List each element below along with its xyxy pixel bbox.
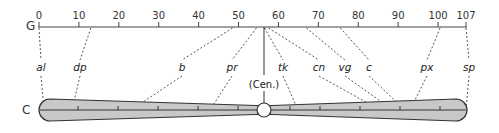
gene-label-cn: cn [313,61,325,73]
scale-tick-label: 20 [112,10,125,21]
gene-connector-upper [306,28,345,60]
centromere-circle [257,103,271,117]
chromosome-map-diagram: G 0102030405060708090100107 aldpbprtkcnv… [0,0,499,133]
gene-connector-lines [39,28,469,110]
gene-connector-upper [427,28,440,60]
scale-tick-label: 0 [36,10,42,21]
genetic-map-axis: G 0102030405060708090100107 [26,10,476,33]
gene-label-b: b [179,61,186,73]
cytological-map: C [22,99,467,121]
gene-label-c: c [366,61,372,73]
gene-label-al: al [36,61,45,73]
cytological-map-letter: C [22,103,30,117]
genetic-map-ticks: 0102030405060708090100107 [36,10,476,27]
gene-connector-upper [80,28,91,60]
gene-connector-upper [39,28,41,60]
gene-label-vg: vg [339,61,352,73]
gene-connector-upper [340,28,369,60]
genetic-map-letter: G [26,19,35,33]
centromere-label: (Cen.) [249,79,280,90]
scale-tick-label: 70 [312,10,325,21]
gene-connector-upper [466,28,469,60]
gene-connector-upper [232,28,256,60]
scale-tick-label: 10 [73,10,86,21]
gene-label-tk: tk [278,61,289,73]
scale-tick-label: 107 [456,10,475,21]
gene-label-dp: dp [73,61,87,73]
scale-tick-label: 100 [429,10,448,21]
gene-connector-upper [182,28,233,60]
scale-tick-label: 50 [232,10,245,21]
scale-tick-label: 90 [392,10,405,21]
gene-label-pr: pr [226,61,239,73]
gene-label-px: px [420,61,435,73]
gene-labels: aldpbprtkcnvgcpxsp [36,61,475,73]
scale-tick-label: 40 [192,10,205,21]
scale-tick-label: 30 [152,10,165,21]
gene-connector-upper [268,28,319,60]
gene-label-sp: sp [463,61,475,73]
scale-tick-label: 60 [272,10,285,21]
scale-tick-label: 80 [352,10,365,21]
gene-connector-upper [264,28,283,60]
